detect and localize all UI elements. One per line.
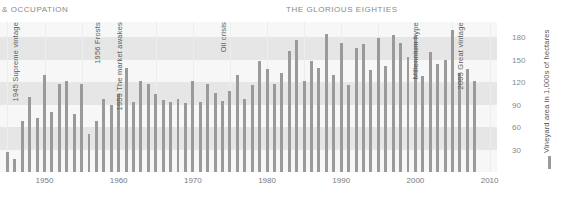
bar	[50, 112, 53, 172]
bar	[377, 38, 380, 172]
bar	[295, 40, 298, 172]
bar	[206, 84, 209, 173]
x-axis-tick-label: 2000	[406, 176, 424, 185]
plot-area: 1945 Supreme vintage1956 Frosts1959 The …	[0, 22, 497, 172]
bar	[147, 84, 150, 173]
bar	[243, 99, 246, 173]
y-axis-tick-label: 30	[512, 145, 521, 154]
bar-series	[0, 22, 497, 172]
x-axis-tick-label: 1980	[258, 176, 276, 185]
bar	[473, 81, 476, 173]
bar	[310, 61, 313, 172]
y-axis-tick-label: 120	[512, 78, 525, 87]
bar	[132, 102, 135, 173]
bar	[325, 34, 328, 172]
x-axis-tick-label: 1950	[36, 176, 54, 185]
bar	[139, 81, 142, 172]
bar	[251, 85, 254, 172]
bar	[407, 57, 410, 172]
bar	[21, 121, 24, 172]
bar	[36, 118, 39, 172]
bar	[191, 81, 194, 173]
chart-annotation: 1945 Supreme vintage	[11, 22, 20, 101]
chart-root: & OCCUPATION THE GLORIOUS EIGHTIES 1945 …	[0, 0, 575, 214]
bar	[169, 102, 172, 173]
y-axis: 306090120150180	[500, 22, 534, 172]
bar	[154, 94, 157, 172]
bar	[95, 121, 98, 172]
bar	[125, 68, 128, 172]
bar	[73, 114, 76, 173]
bar	[80, 84, 83, 173]
chart-annotation: 1956 Frosts	[93, 22, 102, 64]
chart-annotation: Oil crisis	[219, 22, 228, 52]
x-axis-tick-label: 1960	[110, 176, 128, 185]
bar	[28, 97, 31, 172]
bar	[6, 152, 9, 172]
legend-swatch	[548, 156, 551, 169]
bar	[392, 35, 395, 172]
bar	[280, 73, 283, 172]
bar	[340, 43, 343, 172]
y-axis-tick-label: 60	[512, 123, 521, 132]
bar	[303, 81, 306, 173]
bar	[421, 76, 424, 172]
header-center-title: THE GLORIOUS EIGHTIES	[286, 5, 398, 14]
bar	[221, 101, 224, 172]
x-axis-tick-label: 1990	[332, 176, 350, 185]
y-axis-tick-label: 180	[512, 33, 525, 42]
y-axis-tick-label: 150	[512, 55, 525, 64]
bar	[58, 84, 61, 173]
bar	[65, 81, 68, 173]
bar	[228, 91, 231, 172]
bar	[236, 75, 239, 173]
bar	[317, 68, 320, 172]
bar	[466, 69, 469, 173]
x-axis-tick-label: 1970	[184, 176, 202, 185]
bar	[399, 43, 402, 172]
bar	[451, 30, 454, 172]
chart-annotation: 2005 Great vintage	[456, 22, 465, 89]
bar	[13, 159, 16, 173]
bar	[199, 102, 202, 173]
bar	[214, 93, 217, 173]
chart-annotation: 1959 The market awakes	[115, 22, 124, 110]
bar	[384, 66, 387, 173]
bar	[162, 100, 165, 172]
bar	[288, 51, 291, 172]
bar	[258, 61, 261, 172]
bar	[429, 52, 432, 172]
x-axis-tick-label: 2010	[481, 176, 499, 185]
bar	[369, 70, 372, 172]
bar	[362, 44, 365, 172]
x-axis: 1950196019701980199020002010	[0, 176, 497, 192]
bar	[102, 99, 105, 173]
legend-label: Vineyard area in 1,000s of hectares	[542, 29, 551, 153]
bar	[177, 99, 180, 173]
bar	[444, 60, 447, 172]
bar	[43, 75, 46, 173]
bar	[266, 69, 269, 173]
header-left-title: & OCCUPATION	[2, 5, 68, 14]
legend: Vineyard area in 1,000s of hectares	[543, 30, 573, 175]
bar	[436, 64, 439, 172]
chart-annotation: Millennium hype	[411, 22, 420, 79]
bar	[184, 103, 187, 172]
y-axis-tick-label: 90	[512, 100, 521, 109]
bar	[273, 84, 276, 173]
bar	[332, 75, 335, 172]
bar	[110, 105, 113, 173]
bar	[355, 48, 358, 173]
bar	[347, 85, 350, 172]
bar	[88, 134, 91, 172]
